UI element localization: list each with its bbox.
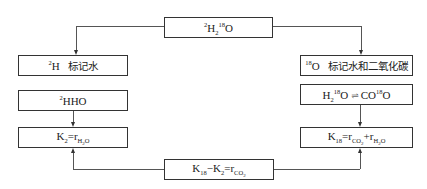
connector-top-right — [273, 26, 361, 27]
label-text: 标记水 — [68, 60, 98, 72]
connector-right-mid — [360, 105, 361, 122]
connector-bottom-left — [73, 169, 164, 170]
connector-top-left-down — [76, 26, 77, 50]
right-label: 18O标记水和二氧化碳 — [305, 58, 407, 73]
element: O — [312, 60, 320, 72]
subscript: O — [85, 137, 90, 144]
species: HHO — [63, 95, 87, 107]
subscript: O — [381, 137, 386, 144]
k-symbol: K — [213, 162, 221, 174]
connector-top-left — [76, 26, 164, 27]
right-species-box: H218O⇌CO18O — [300, 84, 413, 105]
subscript: CO — [234, 169, 243, 176]
top-box-formula: 2H218O — [204, 22, 233, 34]
element: CO — [361, 89, 376, 101]
subscript: 2 — [330, 96, 333, 103]
arrow-up-icon — [358, 148, 362, 153]
subscript: 2 — [361, 142, 364, 147]
right-formula-box: K18=rCO2+rH2O — [300, 127, 413, 148]
left-species: 2HHO — [59, 95, 86, 107]
equilibrium-arrows-icon: ⇌ — [351, 91, 358, 101]
element: O — [383, 89, 391, 101]
right-formula: K18=rCO2+rH2O — [328, 130, 386, 144]
subscript: 2 — [243, 174, 246, 179]
bottom-formula: K18−K2=rCO2 — [192, 162, 245, 176]
k-symbol: K — [328, 130, 336, 142]
left-species-box: 2HHO — [18, 90, 128, 111]
connector-top-right-down — [361, 26, 362, 50]
label-text: 标记水和二氧化碳 — [328, 60, 408, 72]
right-species: H218O⇌CO18O — [323, 89, 391, 101]
left-label-box: 2H标记水 — [18, 55, 128, 76]
element: O — [225, 22, 233, 34]
right-label-box: 18O标记水和二氧化碳 — [300, 55, 413, 76]
subscript: 2 — [215, 29, 218, 36]
subscript: CO — [352, 137, 361, 144]
left-formula: K2=rH2O — [57, 130, 90, 144]
connector-left-mid — [73, 111, 74, 122]
connector-bottom-right — [274, 169, 360, 170]
connector-bottom-right-up — [360, 153, 361, 169]
connector-bottom-left-up — [73, 153, 74, 169]
left-formula-box: K2=rH2O — [18, 127, 128, 148]
arrow-up-icon — [71, 148, 75, 153]
bottom-box-difference: K18−K2=rCO2 — [164, 159, 274, 180]
element: O — [340, 89, 348, 101]
left-label: 2H标记水 — [48, 58, 97, 73]
element: H — [52, 60, 60, 72]
top-box-doubly-labeled-water: 2H218O — [164, 17, 273, 38]
